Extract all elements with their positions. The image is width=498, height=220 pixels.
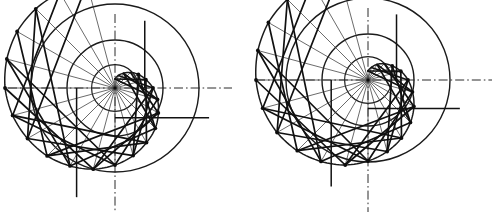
vertex-dot [151, 86, 155, 90]
radial-line [287, 0, 368, 80]
vertex-dot [261, 106, 265, 110]
vertex-dot [390, 64, 394, 68]
vertex-dot [399, 69, 403, 73]
vertex-dot [45, 154, 49, 158]
vertex-dot [156, 111, 160, 115]
spiral-diagram-canvas [0, 0, 498, 220]
radial-line [258, 50, 368, 80]
vertex-dot [91, 167, 95, 171]
vertex-dot [15, 30, 19, 34]
vertex-dot [319, 160, 323, 164]
figure-root [0, 0, 498, 220]
right-spiral-diagram [254, 0, 492, 212]
vertex-dot [136, 73, 140, 77]
vertex-dot [11, 114, 15, 118]
chord-line [93, 88, 153, 169]
vertex-dot [275, 131, 279, 135]
vertex-dot [113, 163, 117, 167]
radial-line [7, 59, 115, 88]
radial-line [340, 0, 368, 80]
vertex-dot [5, 57, 9, 61]
center-point [113, 86, 116, 89]
radial-line [297, 80, 368, 151]
vertex-dot [256, 49, 260, 53]
vertex-dot [153, 126, 157, 130]
radial-line [13, 88, 115, 115]
vertex-dot [3, 86, 7, 90]
vertex-dot [400, 136, 404, 140]
radial-line [312, 0, 368, 80]
vertex-dot [26, 137, 30, 141]
vertex-dot [254, 78, 258, 82]
vertex-dot [144, 78, 148, 82]
chord-line [345, 80, 408, 165]
vertex-dot [68, 164, 72, 168]
radial-line [36, 9, 115, 88]
vertex-dot [411, 90, 415, 94]
vertex-dot [131, 154, 135, 158]
vertex-dot [145, 141, 149, 145]
radial-line [87, 0, 115, 88]
vertex-dot [412, 105, 416, 109]
vertex-dot [34, 7, 38, 11]
vertex-dot [156, 97, 160, 101]
vertex-dot [267, 21, 271, 25]
center-point [366, 78, 369, 81]
vertex-dot [343, 163, 347, 167]
vertex-dot [406, 78, 410, 82]
vertex-dot [385, 150, 389, 154]
vertex-dot [409, 121, 413, 125]
vertex-dot [366, 159, 370, 163]
left-spiral-diagram [3, 0, 232, 212]
vertex-dot [295, 149, 299, 153]
